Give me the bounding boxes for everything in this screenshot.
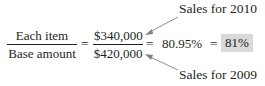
rounded-result-highlight: 81%: [221, 34, 253, 52]
fraction-sales-values: $340,000 $420,000: [93, 28, 143, 61]
denominator-420000: $420,000: [93, 45, 143, 61]
equals-sign: =: [81, 36, 88, 52]
arrow-to-denominator-icon: [145, 54, 178, 70]
fraction-each-item-over-base: Each item Base amount: [7, 28, 77, 61]
equals-sign: =: [146, 36, 153, 52]
percent-value: 80.95%: [162, 36, 202, 52]
equals-sign: =: [210, 36, 217, 52]
annotation-sales-2009: Sales for 2009: [179, 67, 257, 83]
numerator-each-item: Each item: [7, 28, 77, 45]
denominator-base-amount: Base amount: [7, 45, 77, 61]
arrow-to-numerator-icon: [145, 17, 178, 35]
numerator-340000: $340,000: [93, 28, 143, 45]
